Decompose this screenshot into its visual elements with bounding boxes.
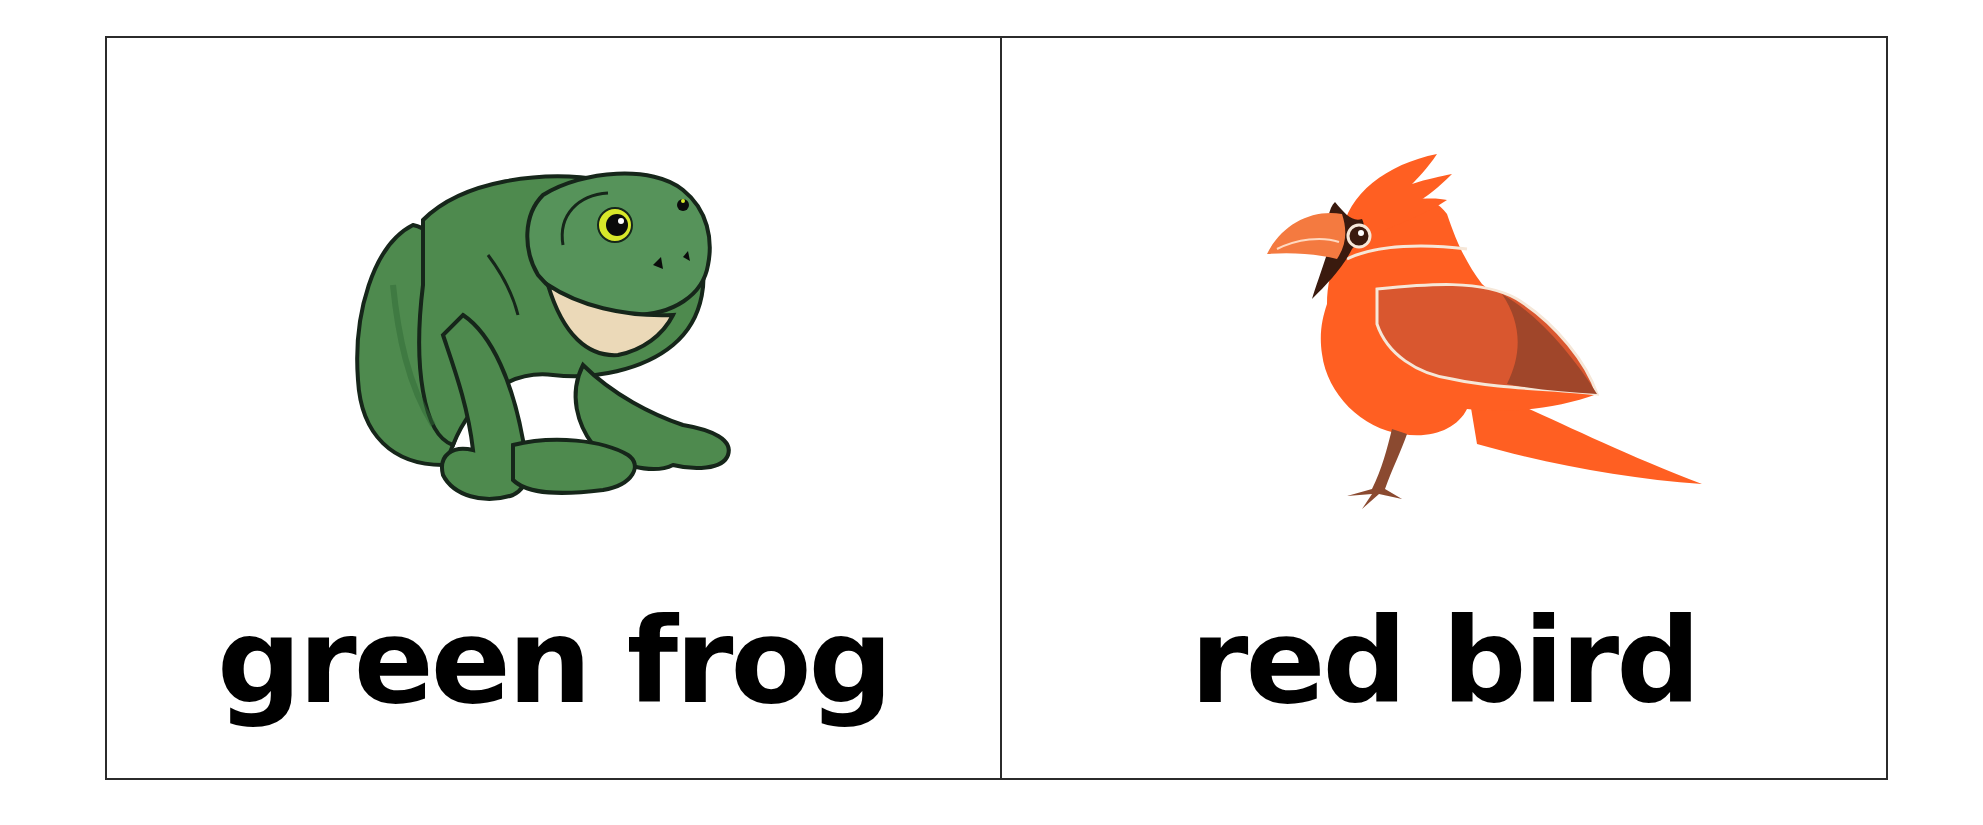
frog-icon <box>353 165 753 510</box>
card-red-bird: red bird <box>1002 38 1886 778</box>
flashcard-sheet: green frog red bird <box>105 36 1888 780</box>
card-label-green-frog: green frog <box>107 586 1000 736</box>
cardinal-bird-icon <box>1267 154 1707 514</box>
card-green-frog: green frog <box>107 38 1000 778</box>
card-label-red-bird: red bird <box>1002 586 1886 736</box>
